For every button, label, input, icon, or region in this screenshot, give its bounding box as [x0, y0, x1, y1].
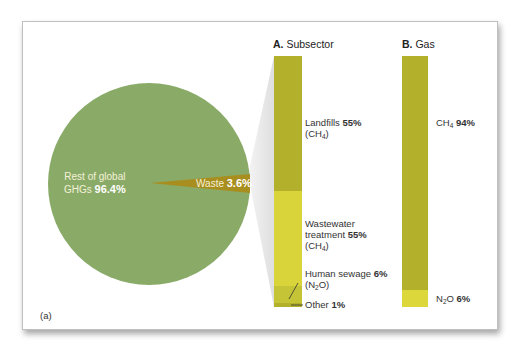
- bar-b-n2o: [402, 290, 428, 307]
- bar-a-landfills: [274, 56, 302, 191]
- label-human-sewage: Human sewage 6% (N2O): [305, 268, 387, 290]
- rest-label-line2: GHGs 96.4%: [64, 183, 126, 196]
- bar-a-wastewater: [274, 191, 302, 286]
- bar-a-human-sewage: [274, 286, 302, 303]
- label-ch4: CH4 94%: [436, 117, 475, 128]
- label-n2o: N2O 6%: [436, 293, 470, 304]
- rest-label-line1: Rest of global: [64, 170, 126, 183]
- pie-label-rest: Rest of global GHGs 96.4%: [64, 170, 126, 196]
- bar-b-ch4: [402, 56, 428, 290]
- heading-subsector: A. Subsector: [273, 38, 334, 50]
- label-wastewater: Wastewater treatment 55% (CH4): [305, 218, 367, 251]
- heading-gas: B. Gas: [402, 38, 435, 50]
- label-other: Other 1%: [305, 299, 345, 310]
- pie-label-waste: Waste 3.6%: [196, 177, 252, 190]
- label-landfills: Landfills 55% (CH4): [305, 117, 362, 139]
- panel-label: (a): [40, 310, 52, 321]
